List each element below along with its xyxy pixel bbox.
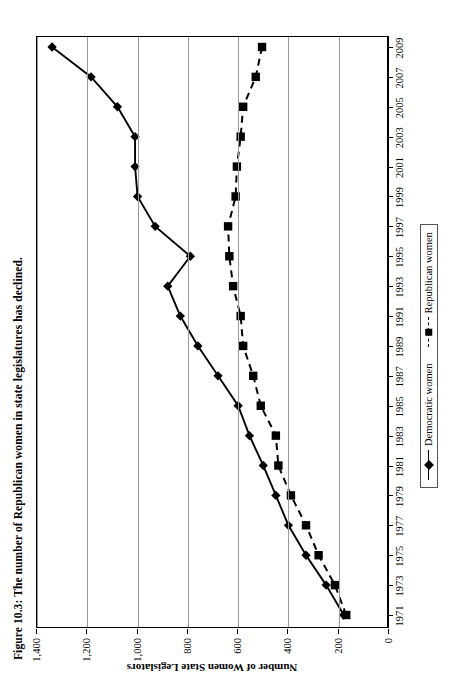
data-point-marker [274,461,282,469]
gridline [238,37,239,627]
data-point-marker [302,521,310,529]
data-point-marker [271,491,280,500]
x-axis-tick-mark [388,256,393,257]
x-axis-tick-mark [388,47,393,48]
x-axis-tick-label: 2001 [394,157,405,178]
x-axis-tick-mark [388,466,393,467]
figure-title: Figure 10.3: The number of Republican wo… [12,257,24,660]
y-axis-tick-label: 1,200 [81,638,92,662]
x-axis-tick-label: 2007 [394,67,405,88]
y-axis-tick-labels: 02004006008001,0001,2001,400 [36,634,388,684]
y-axis-tick-mark [86,629,87,634]
data-point-marker [342,611,350,619]
y-axis-tick-label: 600 [232,638,243,654]
gridline [87,37,88,627]
data-point-marker [259,461,268,470]
x-axis-tick-label: 2009 [394,38,405,59]
x-axis-tick-label: 1977 [394,516,405,537]
series-line-2 [228,47,346,615]
x-axis-tick-label: 1993 [394,277,405,298]
y-axis-tick-mark [287,629,288,634]
data-point-marker [176,311,185,320]
x-axis-tick-mark [388,406,393,407]
figure-stage: Figure 10.3: The number of Republican wo… [0,0,452,684]
chart-legend: Democratic womenRepublican women [420,224,438,488]
x-axis-tick-mark [388,107,393,108]
y-axis-tick-label: 200 [332,638,343,654]
x-axis-tick-label: 1987 [394,366,405,387]
y-axis-tick-label: 800 [181,638,192,654]
x-axis-tick-mark [388,615,393,616]
data-point-marker [258,43,266,51]
x-axis-tick-mark [388,286,393,287]
y-axis-tick-mark [237,629,238,634]
diamond-marker-icon [424,460,434,470]
x-axis-tick-label: 1985 [394,396,405,417]
data-point-marker [224,222,232,230]
gridline [339,37,340,627]
data-point-marker [252,73,260,81]
x-axis-tick-label: 2005 [394,97,405,118]
x-axis-tick-label: 1971 [394,606,405,627]
y-axis-tick-mark [36,629,37,634]
x-axis-tick-label: 2003 [394,127,405,148]
gridline [288,37,289,627]
x-axis-tick-label: 1991 [394,307,405,328]
data-point-marker [239,103,247,111]
y-axis-tick-mark [137,629,138,634]
y-axis-tick-mark [388,629,389,634]
x-axis-tick-mark [388,376,393,377]
y-axis-tick-label: 1,400 [31,638,42,662]
data-point-marker [245,431,254,440]
data-point-marker [229,282,237,290]
data-point-marker [257,402,265,410]
square-marker-icon [425,329,433,337]
x-axis-tick-label: 1995 [394,247,405,268]
x-axis-tick-label: 1975 [394,546,405,567]
x-axis-tick-mark [388,196,393,197]
plot-area [36,36,388,628]
legend-swatch-square-icon [424,317,434,347]
x-axis-tick-mark [388,316,393,317]
x-axis-tick-label: 1973 [394,576,405,597]
x-axis-tick-label: 1989 [394,336,405,357]
x-axis-tick-label: 1997 [394,217,405,238]
y-axis-tick-mark [187,629,188,634]
y-axis-tick-label: 400 [282,638,293,654]
data-series-layer [37,35,389,627]
data-point-marker [225,252,233,260]
x-axis-tick-mark [388,436,393,437]
legend-label: Republican women [423,232,434,313]
data-point-marker [272,431,280,439]
x-axis-tick-mark [388,555,393,556]
data-point-marker [239,342,247,350]
x-axis-tick-mark [388,226,393,227]
data-point-marker [249,372,257,380]
x-axis-tick-mark [388,495,393,496]
x-axis-tick-label: 1981 [394,456,405,477]
x-axis-tick-mark [388,525,393,526]
x-axis-tick-mark [388,77,393,78]
legend-label: Democratic women [423,363,434,446]
x-axis-tick-label: 1979 [394,486,405,507]
legend-entry-2: Republican women [423,232,434,347]
gridline [188,37,189,627]
series-line-1 [52,47,344,615]
x-axis-line [388,36,389,628]
data-point-marker [233,162,241,170]
gridline [138,37,139,627]
x-axis-tick-mark [388,585,393,586]
x-axis-tick-mark [388,137,393,138]
x-axis-tick-label: 1999 [394,187,405,208]
legend-entry-1: Democratic women [423,363,434,480]
x-axis-tick-mark [388,346,393,347]
legend-swatch-diamond-icon [424,450,434,480]
data-point-marker [314,551,322,559]
gridline [37,37,38,627]
y-axis-tick-label: 1,000 [131,638,142,662]
x-axis-tick-label: 1983 [394,426,405,447]
y-axis-tick-mark [338,629,339,634]
y-axis-tick-label: 0 [383,638,394,643]
x-axis-tick-mark [388,167,393,168]
